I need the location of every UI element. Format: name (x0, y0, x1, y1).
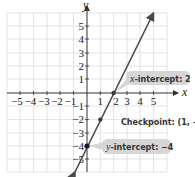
svg-text:4: 4 (137, 95, 143, 107)
y-intercept-point (84, 143, 89, 148)
y-intercept-pointer (88, 142, 104, 150)
svg-text:3: 3 (79, 47, 85, 59)
svg-text:5: 5 (151, 95, 157, 107)
y-intercept-callout: y-intercept: −4 (102, 139, 174, 154)
svg-text:5: 5 (79, 20, 85, 32)
svg-text:1: 1 (98, 95, 104, 107)
svg-text:−2: −2 (51, 95, 63, 107)
svg-text:−3: −3 (72, 127, 84, 139)
svg-text:2: 2 (113, 95, 119, 107)
svg-text:Checkpoint: (1, −2): Checkpoint: (1, −2) (121, 118, 195, 127)
svg-text:−1: −1 (72, 100, 84, 112)
graph: −5 −4 −3 −2 −1 1 2 3 4 5 5 4 3 2 1 −1 −2… (0, 0, 195, 177)
checkpoint-callout: Checkpoint: (1, −2) (121, 118, 195, 127)
svg-text:1: 1 (79, 73, 85, 85)
svg-text:2: 2 (79, 60, 85, 72)
svg-text:−3: −3 (38, 95, 50, 107)
svg-text:−5: −5 (11, 95, 23, 107)
svg-text:x-intercept: 2: x-intercept: 2 (129, 73, 191, 84)
svg-text:−5: −5 (72, 153, 84, 165)
svg-text:−2: −2 (72, 113, 84, 125)
y-axis-label: y (82, 0, 89, 12)
x-intercept-point (111, 91, 115, 95)
x-intercept-callout: x-intercept: 2 (126, 71, 191, 85)
svg-text:−4: −4 (72, 140, 84, 152)
svg-text:y-intercept: −4: y-intercept: −4 (105, 141, 174, 152)
y-tick-labels: 5 4 3 2 1 −1 −2 −3 −4 −5 (72, 20, 84, 165)
checkpoint-point (98, 117, 102, 121)
svg-text:3: 3 (124, 95, 130, 107)
svg-text:4: 4 (79, 33, 85, 45)
svg-text:−4: −4 (25, 95, 37, 107)
x-axis-label: x (181, 85, 188, 99)
